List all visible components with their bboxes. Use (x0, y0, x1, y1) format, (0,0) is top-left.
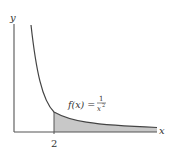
function-label: f(x) = (67, 99, 95, 110)
curve-f-of-x (31, 25, 157, 128)
fraction-denominator: x (97, 105, 101, 113)
shaded-area (54, 112, 157, 132)
fraction-exponent: 2 (102, 102, 105, 108)
improper-integral-diagram: y x 2 f(x) = 1 x 2 (0, 0, 178, 152)
tick-label-2: 2 (51, 138, 57, 149)
y-axis-label: y (9, 12, 16, 23)
x-axis-label: x (159, 125, 165, 136)
